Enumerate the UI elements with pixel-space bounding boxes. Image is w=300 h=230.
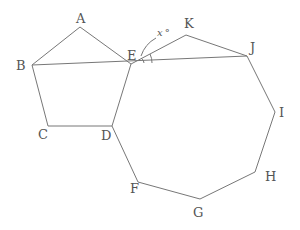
vertex-label-e: E bbox=[127, 48, 137, 63]
angle-arc-x bbox=[150, 54, 152, 63]
vertex-label-k: K bbox=[184, 16, 194, 31]
line-b-j bbox=[32, 56, 247, 65]
vertex-label-a: A bbox=[75, 11, 86, 26]
pentagon-edges bbox=[32, 27, 131, 126]
vertex-label-i: I bbox=[279, 105, 284, 120]
vertex-label-f: F bbox=[130, 181, 139, 196]
angle-label-x: x° bbox=[157, 27, 170, 38]
vertex-label-j: J bbox=[248, 40, 255, 55]
vertex-label-h: H bbox=[265, 169, 276, 184]
vertex-label-b: B bbox=[16, 58, 26, 73]
vertex-label-g: G bbox=[193, 205, 203, 220]
vertex-label-d: D bbox=[101, 128, 111, 143]
geometry-figure: x° A B C D E F G H I J K bbox=[0, 0, 300, 230]
vertex-label-c: C bbox=[38, 127, 48, 142]
angle-leader-line bbox=[141, 38, 156, 56]
